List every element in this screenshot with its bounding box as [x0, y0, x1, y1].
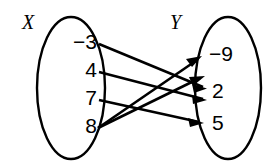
set-x-element-3: 8 [85, 114, 97, 137]
set-y-element-1: 2 [212, 79, 224, 102]
set-x-name-label: X [21, 11, 35, 33]
set-x-element-0: −3 [73, 30, 97, 53]
mapping-diagram-figure: X Y −3 4 7 8 [0, 0, 276, 166]
set-x-element-2: 7 [85, 86, 97, 109]
set-x-element-1: 4 [85, 58, 97, 81]
set-y-name-label: Y [170, 11, 183, 33]
mapping-arrow-8-to--9 [98, 56, 202, 128]
mapping-arrow-4-to-2 [99, 72, 207, 104]
set-y-element-2: 5 [212, 111, 224, 134]
mapping-diagram-canvas: X Y −3 4 7 8 [0, 0, 276, 166]
mapping-arrow-7-to-5 [99, 100, 204, 127]
set-y-element-0: −9 [209, 42, 233, 65]
